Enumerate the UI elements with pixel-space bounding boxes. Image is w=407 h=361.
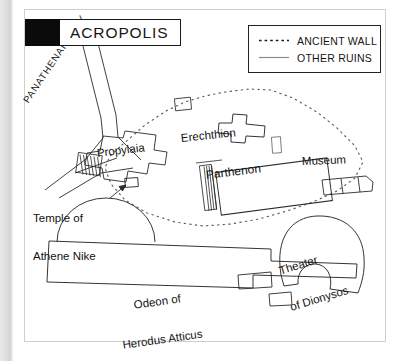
page-left-gutter (0, 0, 13, 361)
legend-label-ancient-wall: ANCIENT WALL (297, 35, 377, 47)
map-title-plate: ACROPOLIS (25, 19, 181, 46)
map-label-temple-athene-nike-line1: Temple of (33, 212, 96, 225)
map-label-museum: Museum (302, 153, 347, 167)
page-title: ACROPOLIS (70, 24, 169, 42)
map-legend: ANCIENT WALL OTHER RUINS (248, 25, 381, 73)
map-label-odeon-line2: Herodus Atticus (122, 328, 204, 352)
title-box: ACROPOLIS (60, 19, 181, 46)
map-label-odeon-herodus-atticus: Odeon of Herodus Atticus (113, 264, 207, 361)
legend-item-ancient-wall: ANCIENT WALL (257, 32, 373, 49)
map-label-temple-athene-nike: Temple of Athene Nike (33, 186, 96, 289)
map-page: PANATHENAIC WAY Propylaia Erechthion Par… (0, 0, 407, 361)
solid-line-icon (257, 55, 291, 60)
map-label-theater-line1: Theater (277, 247, 338, 277)
legend-label-other-ruins: OTHER RUINS (297, 52, 372, 64)
map-label-temple-athene-nike-line2: Athene Nike (33, 250, 96, 263)
title-black-swatch (25, 19, 60, 46)
dotted-line-icon (257, 38, 291, 43)
erechthion-annex-ruin (271, 137, 281, 154)
temple-athene-nike-leader-arrow (110, 185, 126, 198)
north-wall-small-ruin (174, 97, 191, 111)
map-label-theater-line2: of Dionysos (289, 284, 350, 314)
legend-item-other-ruins: OTHER RUINS (257, 49, 373, 66)
map-label-odeon-line1: Odeon of (116, 290, 198, 314)
